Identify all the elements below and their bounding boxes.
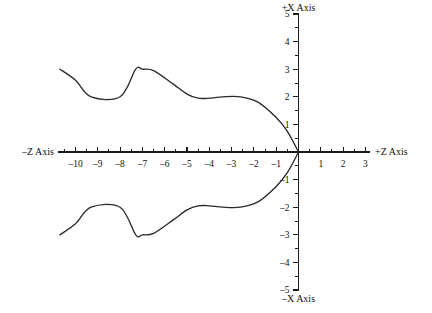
x-tick-label: 2 <box>285 92 290 102</box>
z-tick-label: –7 <box>137 159 148 169</box>
z-tick-label: –5 <box>181 159 192 169</box>
z-tick-label: –9 <box>92 159 103 169</box>
profile-curve-upper-surface <box>60 67 299 152</box>
z-axis-negative-caption: –Z Axis <box>21 146 54 157</box>
z-tick-label: 3 <box>363 159 368 169</box>
x-tick-label: –4 <box>279 258 290 268</box>
z-tick-label: –8 <box>114 159 125 169</box>
coordinate-plot: –10–9–8–7–6–5–4–3–2–1123 54321–1–2–3–4–5… <box>0 0 432 313</box>
z-tick-label: 2 <box>341 159 346 169</box>
axis-lines <box>58 14 370 290</box>
z-tick-label: –3 <box>226 159 237 169</box>
x-axis-negative-caption: –X Axis <box>281 293 315 304</box>
z-axis-positive-caption: +Z Axis <box>375 146 408 157</box>
z-tick-label: –2 <box>248 159 259 169</box>
z-axis-ticks <box>64 147 365 153</box>
diagram-canvas: –10–9–8–7–6–5–4–3–2–1123 54321–1–2–3–4–5… <box>0 0 432 313</box>
z-tick-label: 1 <box>318 159 323 169</box>
z-tick-label: –10 <box>67 159 83 169</box>
x-axis-positive-caption: +X Axis <box>282 2 316 13</box>
z-tick-label: –4 <box>204 159 215 169</box>
x-tick-label: 4 <box>285 37 290 47</box>
x-tick-label: –3 <box>279 230 290 240</box>
x-tick-label: 3 <box>285 65 290 75</box>
z-tick-label: –1 <box>270 159 281 169</box>
x-tick-label: –2 <box>279 203 290 213</box>
z-axis-tick-labels: –10–9–8–7–6–5–4–3–2–1123 <box>67 159 368 169</box>
z-tick-label: –6 <box>159 159 170 169</box>
